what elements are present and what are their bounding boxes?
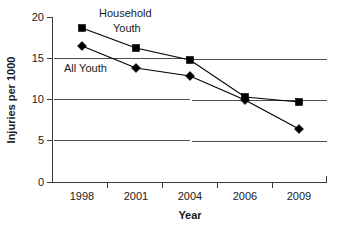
x-tick-label-2004: 2004 [178,190,202,202]
data-point-household-2001 [133,45,140,52]
data-point-household-2009 [296,99,303,106]
annotation-household-youth-line2: Youth [113,22,141,34]
data-point-allyouth-1998 [78,42,87,51]
series-line-household-youth [82,28,299,102]
chart-canvas: 20 15 10 5 0 1998 2001 2004 2006 2009 Ye… [0,0,343,235]
data-point-household-2004 [187,57,194,64]
series-all-youth [78,42,304,134]
annotation-all-youth: All Youth [64,62,107,74]
data-point-allyouth-2009 [295,125,304,134]
y-tick-label-15: 15 [32,52,44,64]
x-axis-title: Year [178,209,202,221]
annotation-all-youth-label: All Youth [64,62,107,74]
annotation-household-youth: Household Youth [99,7,152,34]
y-tick-label-0: 0 [38,176,44,188]
series-household-youth [79,25,303,106]
x-tick-labels: 1998 2001 2004 2006 2009 [70,190,311,202]
data-point-allyouth-2001 [132,64,141,73]
injuries-per-1000-line-chart: 20 15 10 5 0 1998 2001 2004 2006 2009 Ye… [0,0,343,235]
x-tick-label-1998: 1998 [70,190,94,202]
x-tick-label-2009: 2009 [287,190,311,202]
y-tick-label-10: 10 [32,93,44,105]
x-tick-label-2006: 2006 [233,190,257,202]
y-tick-label-20: 20 [32,11,44,23]
y-tick-label-5: 5 [38,134,44,146]
data-point-allyouth-2004 [186,72,195,81]
y-tick-labels: 20 15 10 5 0 [32,11,44,188]
x-tick-label-2001: 2001 [124,190,148,202]
y-axis-title: Injuries per 1000 [5,57,17,144]
gridline-5 [52,140,327,142]
axis-group [47,17,327,188]
data-point-household-1998 [79,25,86,32]
annotation-household-youth-line1: Household [99,7,152,19]
